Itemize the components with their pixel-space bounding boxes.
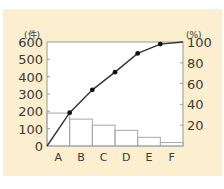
right-tick-label: 40 (187, 97, 204, 112)
left-tick-label: 500 (18, 52, 43, 67)
left-tick-label: 400 (18, 70, 43, 85)
cumulative-marker (90, 87, 95, 92)
category-label: C (100, 151, 108, 164)
plot-area: 010020030040050060020406080100ABCDEF (18, 35, 212, 164)
right-tick-label: 60 (187, 77, 204, 92)
left-tick-label: 300 (18, 87, 43, 102)
right-tick-label: 100 (187, 35, 212, 50)
right-tick-label: 20 (187, 118, 204, 133)
cumulative-marker (158, 42, 163, 47)
left-tick-label: 0 (35, 139, 43, 154)
category-label: F (169, 151, 175, 164)
category-label: E (146, 151, 153, 164)
category-label: D (122, 151, 130, 164)
pareto-chart: (件) (%) 010020030040050060020406080100AB… (0, 0, 224, 189)
category-label: B (77, 151, 85, 164)
cumulative-marker (67, 110, 72, 115)
category-label: A (55, 151, 63, 164)
right-tick-label: 80 (187, 56, 204, 71)
left-tick-label: 100 (18, 122, 43, 137)
cumulative-marker (113, 70, 118, 75)
cumulative-marker (135, 51, 140, 56)
left-tick-label: 200 (18, 104, 43, 119)
left-tick-label: 600 (18, 35, 43, 50)
